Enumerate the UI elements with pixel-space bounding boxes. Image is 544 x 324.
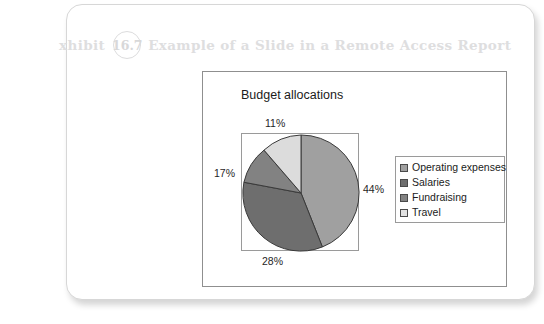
chart-title: Budget allocations bbox=[241, 88, 343, 102]
exhibit-title: Example of a Slide in a Remote Access Re… bbox=[148, 37, 511, 53]
pie-label-fundraising: 17% bbox=[214, 167, 235, 179]
pie-label-salaries: 28% bbox=[262, 255, 283, 267]
chart-legend: Operating expenses Salaries Fundraising … bbox=[395, 156, 505, 223]
legend-item-travel: Travel bbox=[400, 205, 504, 220]
legend-item-fundraising: Fundraising bbox=[400, 190, 504, 205]
legend-item-salaries: Salaries bbox=[400, 175, 504, 190]
legend-swatch-icon bbox=[400, 194, 408, 202]
legend-swatch-icon bbox=[400, 164, 408, 172]
exhibit-number-badge: 16.7 bbox=[113, 31, 141, 59]
legend-label: Travel bbox=[412, 207, 441, 218]
legend-item-operating-expenses: Operating expenses bbox=[400, 160, 504, 175]
pie-label-travel: 11% bbox=[265, 117, 285, 129]
legend-label: Salaries bbox=[412, 177, 450, 188]
page-card: xhibit 16.7 Example of a Slide in a Remo… bbox=[66, 4, 535, 300]
pie-chart-svg bbox=[238, 130, 364, 256]
exhibit-label: xhibit bbox=[59, 37, 105, 53]
legend-label: Operating expenses bbox=[412, 162, 506, 173]
exhibit-number: 16.7 bbox=[112, 38, 142, 53]
pie-label-operating-expenses: 44% bbox=[363, 183, 384, 195]
legend-swatch-icon bbox=[400, 179, 408, 187]
pie-chart-plot-area bbox=[241, 133, 359, 251]
slide-frame: Budget allocations 11% 17% 44% 28% Opera… bbox=[202, 71, 507, 287]
legend-swatch-icon bbox=[400, 209, 408, 217]
legend-label: Fundraising bbox=[412, 192, 467, 203]
exhibit-header: xhibit 16.7 Example of a Slide in a Remo… bbox=[67, 32, 537, 58]
